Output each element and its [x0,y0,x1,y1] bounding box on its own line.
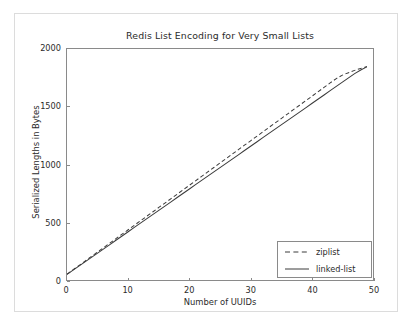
x-tick-label: 0 [51,285,81,295]
x-tick-label: 20 [174,285,204,295]
x-tick-label: 30 [236,285,266,295]
chart-title: Redis List Encoding for Very Small Lists [66,30,374,41]
legend-label-linked-list: linked-list [316,264,355,274]
legend-item-linked-list: linked-list [278,260,371,278]
y-tick-mark [67,281,70,282]
x-tick-label: 40 [297,285,327,295]
y-tick-mark [67,165,70,166]
y-tick-label: 2000 [21,43,61,53]
legend-item-ziplist: ziplist [278,243,371,261]
line-chart: Redis List Encoding for Very Small Lists… [0,0,413,326]
x-axis-label: Number of UUIDs [66,297,374,307]
y-tick-mark [67,223,70,224]
x-tick-mark [374,278,375,281]
y-tick-label: 0 [21,276,61,286]
y-tick-label: 1500 [21,101,61,111]
y-tick-label: 500 [21,218,61,228]
legend-sample-solid-icon [284,264,310,274]
x-tick-mark [251,278,252,281]
chart-legend: ziplist linked-list [277,241,372,278]
x-tick-mark [189,278,190,281]
x-tick-mark [312,278,313,281]
y-axis-label: Serialized Lengths in Bytes [31,82,41,242]
x-tick-label: 50 [359,285,389,295]
y-tick-mark [67,106,70,107]
x-tick-mark [128,278,129,281]
legend-label-ziplist: ziplist [316,247,340,257]
y-tick-mark [67,48,70,49]
x-tick-label: 10 [113,285,143,295]
legend-sample-dashed-icon [284,247,310,257]
y-tick-label: 1000 [21,160,61,170]
